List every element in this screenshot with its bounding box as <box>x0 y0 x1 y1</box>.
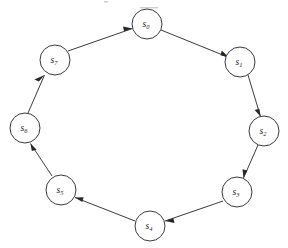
cycle-diagram-svg: s0 s1 s2 s3 <box>0 0 288 248</box>
node-s3[interactable]: s3 <box>222 177 252 207</box>
node-s7[interactable]: s7 <box>40 45 70 75</box>
node-s0[interactable]: s0 <box>132 9 162 39</box>
node-s2[interactable]: s2 <box>249 116 279 146</box>
node-s6[interactable]: s6 <box>10 113 40 143</box>
scan-speck <box>140 7 158 8</box>
node-s1[interactable]: s1 <box>225 47 255 77</box>
node-s4[interactable]: s4 <box>135 211 165 241</box>
node-s5[interactable]: s5 <box>46 175 76 205</box>
cycle-diagram-canvas: s0 s1 s2 s3 <box>0 0 288 248</box>
scan-speck <box>104 1 108 3</box>
